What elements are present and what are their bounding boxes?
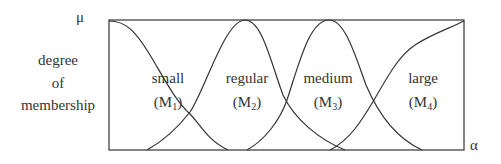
set-label-large: large (M4) — [383, 66, 463, 114]
set-id: (M1) — [128, 90, 208, 114]
set-name: large — [383, 66, 463, 90]
set-id: (M3) — [288, 90, 368, 114]
x-axis-symbol: α — [470, 138, 478, 153]
set-label-medium: medium (M3) — [288, 66, 368, 114]
set-name: regular — [207, 66, 287, 90]
set-name: medium — [288, 66, 368, 90]
set-label-regular: regular (M2) — [207, 66, 287, 114]
set-id: (M2) — [207, 90, 287, 114]
y-axis-label-line: degree — [12, 49, 104, 72]
set-id: (M4) — [383, 90, 463, 114]
set-name: small — [128, 66, 208, 90]
y-axis-label: degree of membership — [12, 49, 104, 117]
y-axis-label-line: membership — [12, 94, 104, 117]
y-axis-symbol: μ — [76, 10, 84, 25]
set-label-small: small (M1) — [128, 66, 208, 114]
y-axis-label-line: of — [12, 72, 104, 95]
